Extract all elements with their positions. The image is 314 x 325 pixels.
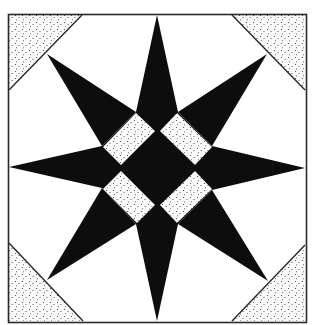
quilt-block-illustration: [0, 0, 314, 325]
star-shape: [9, 15, 305, 321]
